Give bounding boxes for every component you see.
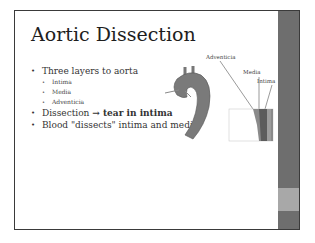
arrow-right-icon: → <box>92 108 100 118</box>
aorta-illustration-icon <box>163 63 223 143</box>
label-intima: Intima <box>257 78 275 84</box>
slide: Aortic Dissection Three layers to aorta … <box>14 10 300 230</box>
label-adventicia: Adventicia <box>206 54 236 60</box>
bullet-text-bold: tear in intima <box>100 108 173 118</box>
label-media: Media <box>243 69 260 75</box>
side-bar-accent <box>278 188 299 211</box>
bullet-text: Dissection <box>42 108 92 118</box>
decorative-side-bar <box>278 11 299 229</box>
slide-title: Aortic Dissection <box>31 23 196 45</box>
